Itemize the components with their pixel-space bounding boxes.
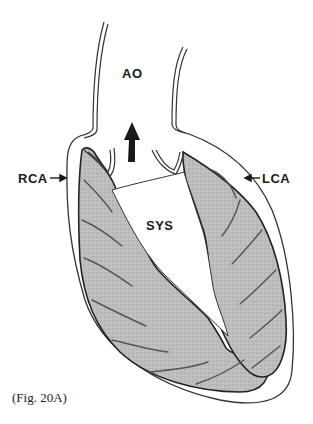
label-lca: LCA [262, 171, 290, 186]
figure-caption: (Fig. 20A) [12, 390, 67, 406]
label-systole: SYS [146, 218, 174, 233]
label-rca: RCA [18, 171, 48, 186]
rca-pointer [50, 175, 66, 181]
lca-pointer [245, 175, 260, 181]
label-aorta: AO [122, 66, 143, 81]
flow-arrow [124, 122, 140, 162]
heart-systole-diagram [0, 0, 313, 424]
